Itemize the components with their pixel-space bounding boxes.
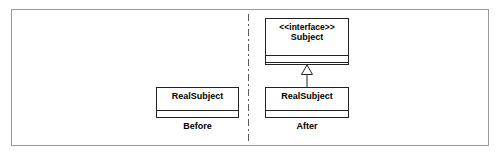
panel-caption-before: Before [156,121,239,132]
uml-class-realsubject-after-header: RealSubject [266,88,348,110]
uml-class-realsubject-before[interactable]: RealSubject [156,87,239,118]
realization-arrow-icon [297,64,317,88]
uml-class-realsubject-before-name: RealSubject [159,91,236,101]
uml-class-realsubject-after[interactable]: RealSubject [265,87,349,118]
uml-diagram-figure: <<interface>> Subject RealSubject RealSu… [0,0,501,155]
uml-class-subject-attributes [266,55,348,62]
uml-class-subject-name: Subject [268,32,346,42]
uml-class-realsubject-after-name: RealSubject [268,91,346,101]
uml-class-realsubject-after-attributes [266,110,348,117]
panel-caption-after: After [265,121,349,132]
uml-class-subject-header: <<interface>> Subject [266,19,348,55]
uml-class-realsubject-before-header: RealSubject [157,88,238,110]
uml-class-subject[interactable]: <<interface>> Subject [265,18,349,65]
panel-divider [248,14,249,141]
uml-class-realsubject-before-attributes [157,110,238,117]
uml-class-subject-stereotype: <<interface>> [268,22,346,32]
figure-frame [11,9,489,146]
